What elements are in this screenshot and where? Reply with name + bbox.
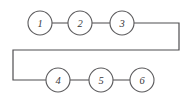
node-4[interactable]: 4 [46,68,70,92]
node-3[interactable]: 3 [110,11,134,35]
node-1-label: 1 [37,18,42,29]
diagram-canvas: 1 2 3 4 5 6 [0,0,192,103]
node-5[interactable]: 5 [89,68,113,92]
node-link-diagram: 1 2 3 4 5 6 [0,0,192,103]
node-6-label: 6 [139,75,145,86]
node-2[interactable]: 2 [68,11,92,35]
node-3-label: 3 [118,18,124,29]
node-4-label: 4 [55,75,61,86]
node-5-label: 5 [98,75,103,86]
node-2-label: 2 [77,18,83,29]
node-1[interactable]: 1 [28,11,52,35]
node-6[interactable]: 6 [130,68,154,92]
